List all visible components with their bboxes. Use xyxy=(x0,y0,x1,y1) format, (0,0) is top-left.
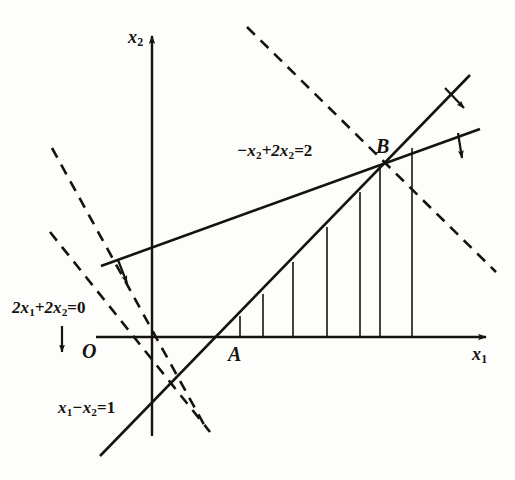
point-b-label: B xyxy=(376,136,389,156)
eq3-part2: +2x xyxy=(35,298,62,317)
eq1-part1: −x xyxy=(237,141,256,160)
dashed-lines-group xyxy=(50,27,496,432)
constraint-x1-minus-x2-line xyxy=(100,75,470,456)
equation-label-minus-x1-plus-2x2: −x2+2x2=2 xyxy=(237,142,312,161)
y-axis-label-sub: 2 xyxy=(137,35,143,49)
objective-dashed-lower-line xyxy=(52,148,207,430)
y-axis-label-var: x xyxy=(128,27,137,47)
eq3-part1: 2x xyxy=(12,298,29,317)
x-axis-label-sub: 1 xyxy=(481,352,487,366)
equation-label-2x1-plus-2x2: 2x1+2x2=0 xyxy=(12,299,86,318)
eq3-tail: =0 xyxy=(67,298,85,317)
hatch-group xyxy=(240,148,412,337)
eq2-part1: x xyxy=(58,398,67,417)
eq1-part2: +2x xyxy=(262,141,289,160)
axes-group xyxy=(96,36,486,436)
point-a-label: A xyxy=(228,344,241,364)
solid-lines-group xyxy=(100,75,480,456)
y-axis-label: x2 xyxy=(128,28,143,49)
x-axis-label-var: x xyxy=(472,344,481,364)
x-axis-label: x1 xyxy=(472,345,487,366)
equation-label-x1-minus-x2: x1−x2=1 xyxy=(58,399,115,418)
eq2-tail: =1 xyxy=(97,398,115,417)
eq2-part2: −x xyxy=(72,398,91,417)
eq1-tail: =2 xyxy=(294,141,312,160)
origin-label: O xyxy=(82,341,96,361)
figure-canvas: x2 x1 O A B −x2+2x2=2 2x1+2x2=0 x1−x2=1 xyxy=(0,0,515,480)
